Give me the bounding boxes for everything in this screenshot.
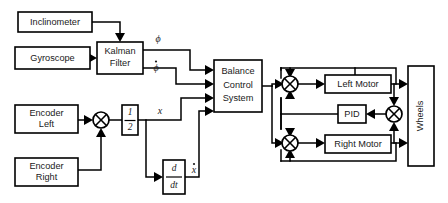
block-balance-control-system[interactable]: Balance Control System [214, 60, 262, 112]
block-kalman-filter[interactable]: Kalman Filter [97, 42, 143, 74]
phi-dot-overdot [155, 60, 157, 62]
signal-label-phi-dot: ϕ [153, 62, 158, 73]
block-derivative[interactable]: d dt [163, 160, 185, 194]
signal-label-x-dot: x [191, 164, 197, 175]
arrow-into-wheelssum-top [389, 97, 399, 106]
left-motor-label: Left Motor [337, 79, 378, 89]
x-dot-overdot [193, 163, 195, 165]
arrow-into-bcs-3 [205, 93, 214, 103]
encoder-left-label-line1: Encoder [29, 108, 63, 118]
arrow-into-derivative [154, 172, 163, 182]
wire-x-branch-to-derivative [146, 120, 157, 177]
balance-control-label-line2: Control [223, 80, 253, 90]
summing-junction-encoder [93, 112, 109, 128]
kalman-filter-label-line2: Filter [110, 58, 130, 68]
signal-label-x: x [157, 105, 163, 116]
block-wheels[interactable]: Wheels [408, 66, 434, 166]
block-diagram-canvas: Inclinometer Gyroscope Kalman Filter Enc… [0, 0, 448, 203]
gyroscope-label: Gyroscope [30, 53, 74, 63]
block-encoder-right[interactable]: Encoder Right [15, 158, 78, 186]
arrow-into-wheels-top [399, 79, 408, 89]
half-gain-numerator: 1 [128, 107, 133, 117]
block-gyroscope[interactable]: Gyroscope [15, 47, 90, 69]
derivative-denominator: dt [170, 180, 178, 190]
arrow-into-encoder-sum-left [84, 115, 93, 125]
arrow-into-bcs-1 [205, 65, 214, 75]
summing-junction-wheels-feedback [386, 106, 402, 122]
encoder-right-label-line2: Right [36, 172, 58, 182]
arrow-into-encoder-sum-bottom [96, 128, 106, 137]
block-left-motor[interactable]: Left Motor [325, 75, 391, 93]
wheels-label: Wheels [415, 100, 425, 131]
arrow-into-bcs-2 [205, 79, 214, 89]
half-gain-denominator: 2 [128, 122, 133, 132]
summing-junction-right-motor [282, 135, 298, 151]
arrow-into-pid [366, 109, 375, 119]
block-diagram-svg: Inclinometer Gyroscope Kalman Filter Enc… [0, 0, 448, 203]
inclinometer-label: Inclinometer [30, 17, 80, 27]
block-pid[interactable]: PID [338, 105, 366, 123]
arrow-into-kalman-top [115, 33, 125, 42]
encoder-right-label-line1: Encoder [29, 161, 63, 171]
block-inclinometer[interactable]: Inclinometer [18, 12, 92, 32]
signal-label-phi: ϕ [155, 33, 160, 44]
right-motor-label: Right Motor [334, 139, 382, 149]
encoder-left-label-line2: Left [39, 119, 55, 129]
summing-junction-left-motor [282, 76, 298, 92]
arrow-into-bcs-4 [205, 106, 214, 116]
balance-control-label-line3: System [223, 93, 254, 103]
arrow-into-rightmotor [316, 138, 325, 148]
wire-x-path [138, 98, 208, 120]
pid-label: PID [344, 109, 360, 119]
derivative-numerator: d [172, 163, 177, 173]
block-encoder-left[interactable]: Encoder Left [15, 105, 78, 133]
wire-xdot-path [185, 111, 208, 177]
block-right-motor[interactable]: Right Motor [325, 135, 391, 153]
wire-encoderright-to-sum [78, 134, 101, 170]
block-half-gain[interactable]: 1 2 [122, 105, 138, 135]
balance-control-label-line1: Balance [221, 66, 254, 76]
arrow-into-wheelssum-bottom [389, 122, 399, 131]
kalman-filter-label-line1: Kalman [104, 46, 135, 56]
arrow-into-leftmotor [316, 79, 325, 89]
arrow-into-wheels-bottom [399, 138, 408, 148]
